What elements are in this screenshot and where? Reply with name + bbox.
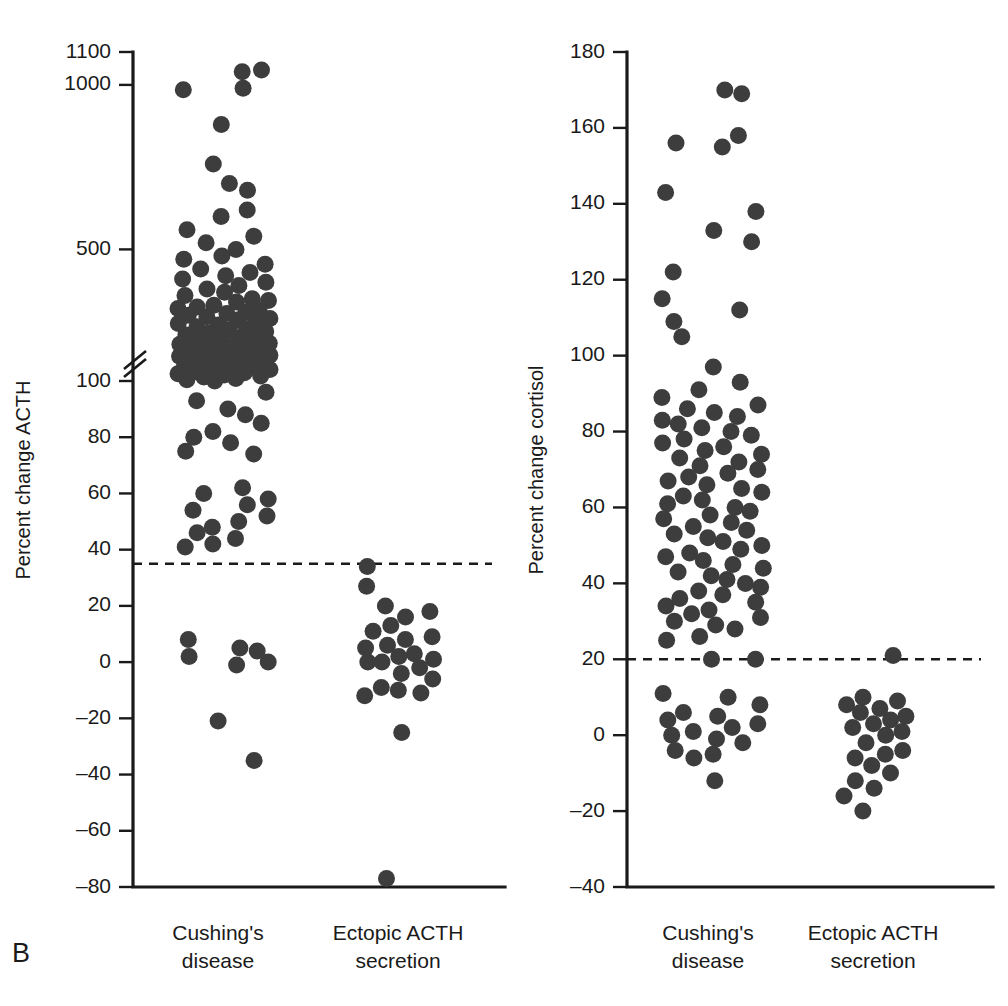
acth-ectopic-dot xyxy=(378,870,395,887)
cortisol-cushings-dot xyxy=(690,583,707,600)
acth-cushings-dot xyxy=(179,221,196,238)
acth-tick-label: –40 xyxy=(76,761,111,784)
cortisol-cushings-dot xyxy=(680,469,697,486)
cortisol-ectopic-dot xyxy=(847,772,864,789)
cortisol-group-label-cushings: Cushing's xyxy=(662,921,754,944)
acth-ectopic-dot xyxy=(421,603,438,620)
cortisol-cushings-dot xyxy=(670,416,687,433)
cortisol-cushings-dot xyxy=(742,503,759,520)
cortisol-ectopic-dot xyxy=(885,647,902,664)
cortisol-cushings-dot xyxy=(666,526,683,543)
cortisol-group-label-ectopic-line2: secretion xyxy=(830,949,915,972)
acth-ectopic-dot xyxy=(382,617,399,634)
cortisol-tick-label: 0 xyxy=(593,722,605,745)
cortisol-cushings-dot xyxy=(675,488,692,505)
acth-ectopic-dot xyxy=(365,623,382,640)
acth-cushings-dot xyxy=(198,234,215,251)
acth-cushings-dot xyxy=(242,264,259,281)
cortisol-tick-label: 60 xyxy=(582,494,605,517)
cortisol-cushings-dot xyxy=(731,302,748,319)
acth-cushings-dot xyxy=(235,80,252,97)
acth-group-label-cushings: Cushing's xyxy=(172,921,264,944)
cortisol-cushings-dot xyxy=(753,446,770,463)
cortisol-cushings-dot xyxy=(714,586,731,603)
cortisol-ectopic-dot xyxy=(882,765,899,782)
acth-plot-svg: –80–60–40–2002040608010050010001100 Perc… xyxy=(0,0,520,1006)
cortisol-cushings-dot xyxy=(749,461,766,478)
acth-cushings-dot xyxy=(227,370,244,387)
acth-cushings-dot xyxy=(260,491,277,508)
acth-cushings-dot xyxy=(195,485,212,502)
cortisol-cushings-dot xyxy=(714,138,731,155)
acth-cushings-dot xyxy=(259,507,276,524)
cortisol-cushings-dot xyxy=(720,689,737,706)
acth-cushings-dot xyxy=(181,648,198,665)
cortisol-ectopic-dot xyxy=(897,708,914,725)
cortisol-tick-label: 20 xyxy=(582,646,605,669)
acth-tick-label: 1000 xyxy=(64,71,111,94)
cortisol-ectopic-dot xyxy=(854,803,871,820)
acth-ectopic-dot xyxy=(412,685,429,702)
acth-cushings-dot xyxy=(174,271,191,288)
cortisol-ectopic-dot xyxy=(844,719,861,736)
acth-ectopic-dot xyxy=(424,628,441,645)
acth-cushings-dot xyxy=(219,401,236,418)
acth-cushings-dot xyxy=(257,274,274,291)
acth-cushings-dot xyxy=(175,251,192,268)
acth-cushings-dot xyxy=(234,479,251,496)
acth-cushings-dot xyxy=(185,502,202,519)
cortisol-cushings-dot xyxy=(727,499,744,516)
acth-cushings-dot xyxy=(189,524,206,541)
acth-cushings-dot xyxy=(204,423,221,440)
acth-axis-break-icon xyxy=(124,351,146,377)
cortisol-cushings-dot xyxy=(685,723,702,740)
cortisol-cushings-dot xyxy=(699,529,716,546)
cortisol-cushings-dot xyxy=(724,556,741,573)
cortisol-ectopic-dot xyxy=(889,693,906,710)
cortisol-tick-label: 40 xyxy=(582,570,605,593)
cortisol-cushings-dot xyxy=(747,651,764,668)
cortisol-cushings-dot xyxy=(752,579,769,596)
cortisol-cushings-dot xyxy=(654,434,671,451)
cortisol-data-points xyxy=(653,82,914,820)
cortisol-cushings-dot xyxy=(658,632,675,649)
cortisol-cushings-dot xyxy=(705,359,722,376)
cortisol-cushings-dot xyxy=(679,400,696,417)
acth-tick-label: 80 xyxy=(88,424,111,447)
acth-cushings-dot xyxy=(192,261,209,278)
cortisol-cushings-dot xyxy=(708,731,725,748)
cortisol-ectopic-dot xyxy=(877,746,894,763)
acth-cushings-dot xyxy=(227,530,244,547)
cortisol-cushings-dot xyxy=(732,541,749,558)
acth-cushings-dot xyxy=(239,496,256,513)
cortisol-cushings-dot xyxy=(703,567,720,584)
cortisol-cushings-dot xyxy=(749,715,766,732)
acth-cushings-dot xyxy=(239,182,256,199)
acth-cushings-dot xyxy=(180,631,197,648)
cortisol-cushings-dot xyxy=(733,85,750,102)
cortisol-cushings-dot xyxy=(747,594,764,611)
acth-cushings-dot xyxy=(213,208,230,225)
acth-cushings-dot xyxy=(228,656,245,673)
cortisol-cushings-dot xyxy=(738,522,755,539)
cortisol-cushings-dot xyxy=(755,560,772,577)
cortisol-cushings-dot xyxy=(663,727,680,744)
acth-ectopic-dot xyxy=(424,671,441,688)
acth-break-slash-1 xyxy=(124,359,146,377)
cortisol-cushings-dot xyxy=(706,404,723,421)
acth-cushings-dot xyxy=(258,384,275,401)
cortisol-tick-label: 80 xyxy=(582,418,605,441)
acth-tick-label: –60 xyxy=(76,817,111,840)
cortisol-cushings-dot xyxy=(719,571,736,588)
acth-group-label-ectopic: Ectopic ACTH xyxy=(333,921,464,944)
acth-cushings-dot xyxy=(222,434,239,451)
cortisol-tick-label: –40 xyxy=(570,874,605,897)
acth-y-axis-ticks: –80–60–40–2002040608010050010001100 xyxy=(64,39,133,897)
acth-data-points xyxy=(170,62,443,888)
acth-ectopic-dot xyxy=(373,679,390,696)
acth-cushings-dot xyxy=(253,62,270,79)
cortisol-cushings-dot xyxy=(703,651,720,668)
cortisol-cushings-dot xyxy=(695,552,712,569)
acth-cushings-dot xyxy=(204,519,221,536)
cortisol-cushings-dot xyxy=(691,628,708,645)
